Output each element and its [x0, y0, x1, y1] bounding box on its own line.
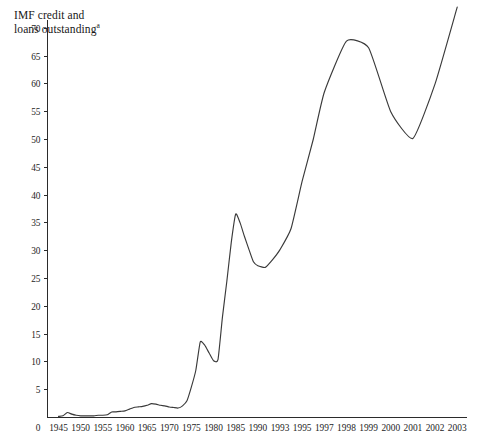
chart-container: IMF credit and loans outstandinga 510152… [0, 0, 489, 439]
y-axis-tick-label: 30 [31, 246, 41, 256]
y-axis-tick-label: 40 [31, 191, 41, 201]
y-axis-tick-label: 70 [31, 24, 41, 34]
y-axis-tick-label: 55 [31, 107, 41, 117]
y-axis-tick-label: 10 [31, 357, 41, 367]
x-axis-tick-label: 1980 [204, 423, 223, 433]
y-axis-tick-label: 65 [31, 52, 41, 62]
y-axis-tick-label: 35 [31, 218, 41, 228]
x-axis-tick-label: 1999 [359, 423, 378, 433]
x-axis-tick-label: 2000 [381, 423, 400, 433]
x-axis-tick-label: 1995 [293, 423, 312, 433]
x-axis-tick-label: 1960 [116, 423, 135, 433]
y-axis-tick-label: 50 [31, 135, 41, 145]
x-axis-tick-label: 1993 [271, 423, 290, 433]
y-axis-tick-label: 25 [31, 274, 41, 284]
line-chart-plot: 510152025303540455055606570 194519501955… [0, 0, 489, 439]
x-axis-tick-label: 1997 [315, 423, 334, 433]
x-axis-tick-label: 1990 [248, 423, 267, 433]
x-axis-tick-label: 2003 [448, 423, 467, 433]
x-axis-tick-label: 1955 [93, 423, 112, 433]
x-axis-tick-label: 2002 [426, 423, 445, 433]
data-series-line [59, 7, 458, 416]
axis-origin-label: 0 [36, 423, 41, 433]
chart-axes [48, 20, 468, 418]
x-axis-tick-label: 1970 [160, 423, 179, 433]
y-axis-tick-label: 15 [31, 330, 41, 340]
x-axis-ticks: 1945195019551960196519701975198019851990… [49, 423, 467, 433]
x-axis-tick-label: 1965 [138, 423, 157, 433]
x-axis-tick-label: 1950 [71, 423, 90, 433]
x-axis-tick-label: 1985 [226, 423, 245, 433]
y-axis-ticks: 510152025303540455055606570 [31, 24, 47, 395]
x-axis-tick-label: 1975 [182, 423, 201, 433]
x-axis-tick-label: 2001 [404, 423, 423, 433]
y-axis-tick-label: 60 [31, 79, 41, 89]
y-axis-tick-label: 5 [36, 385, 41, 395]
y-axis-tick-label: 20 [31, 302, 41, 312]
x-axis-tick-label: 1945 [49, 423, 68, 433]
x-axis-tick-label: 1998 [337, 423, 356, 433]
y-axis-tick-label: 45 [31, 163, 41, 173]
